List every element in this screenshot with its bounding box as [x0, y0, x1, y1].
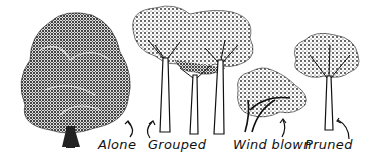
tree-forms-illustration: Alone Grouped Wind blown Pruned [0, 0, 371, 163]
arrows [125, 118, 349, 139]
tree-wind-blown [238, 68, 307, 132]
tree-grouped [133, 6, 253, 134]
tree-alone [21, 13, 130, 148]
label-pruned: Pruned [305, 137, 353, 152]
label-alone: Alone [98, 137, 136, 152]
tree-pruned [294, 33, 359, 130]
label-wind-blown: Wind blown [233, 137, 312, 152]
label-grouped: Grouped [148, 137, 206, 152]
